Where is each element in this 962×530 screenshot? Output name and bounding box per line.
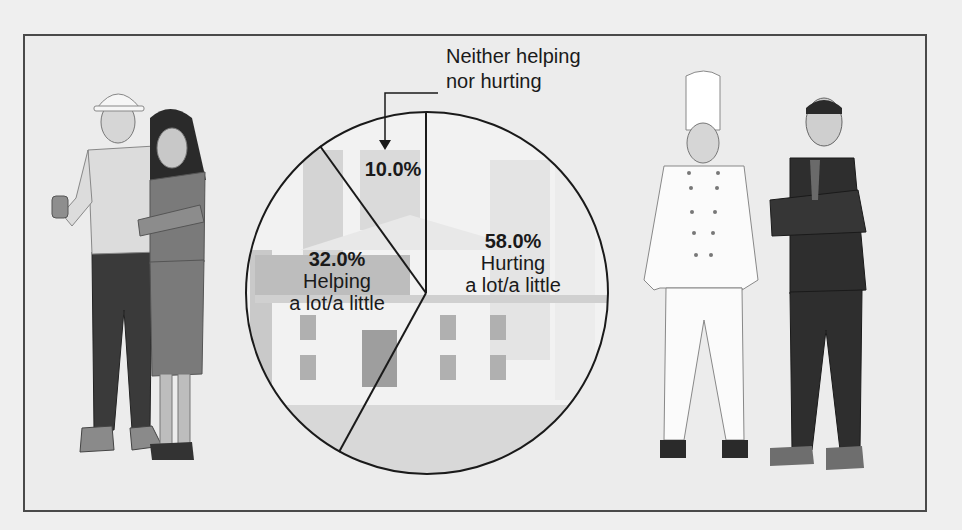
slice-neither-percent: 10.0%	[350, 158, 436, 180]
construction-worker-figure	[52, 94, 162, 452]
annotation-line-1: Neither helping	[446, 44, 581, 69]
slice-label-neither: 10.0%	[350, 158, 436, 180]
slice-hurting-line1: Hurting	[448, 252, 578, 274]
slice-label-helping: 32.0% Helping a lot/a little	[272, 248, 402, 314]
annotation-line-2: nor hurting	[446, 69, 581, 94]
businessman-figure	[770, 98, 866, 470]
slice-helping-line2: a lot/a little	[272, 292, 402, 314]
slice-hurting-percent: 58.0%	[448, 230, 578, 252]
slice-helping-line1: Helping	[272, 270, 402, 292]
slice-helping-percent: 32.0%	[272, 248, 402, 270]
slice-hurting-line2: a lot/a little	[448, 274, 578, 296]
neither-annotation: Neither helping nor hurting	[446, 44, 581, 94]
chef-figure	[644, 71, 758, 458]
slice-label-hurting: 58.0% Hurting a lot/a little	[448, 230, 578, 296]
